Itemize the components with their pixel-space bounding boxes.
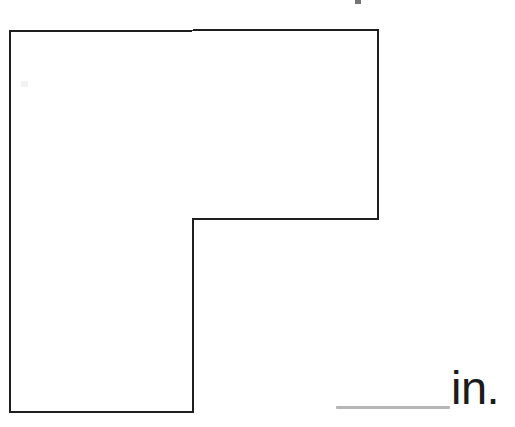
unit-label: in. <box>451 362 499 414</box>
worksheet-canvas: in. <box>0 0 515 427</box>
answer-area: in. <box>330 362 515 422</box>
l-shape-polygon-outline <box>10 30 378 412</box>
scan-artifact-top <box>355 0 361 4</box>
answer-blank-line[interactable] <box>336 406 450 409</box>
scan-artifact-interior <box>21 81 28 87</box>
